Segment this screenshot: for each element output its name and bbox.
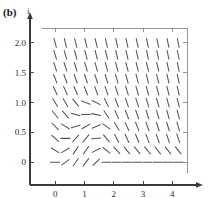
slope-mark [104,99,108,107]
slope-mark [156,134,159,143]
slope-mark [167,98,169,107]
slope-mark [104,111,109,119]
x-tick-label: 1 [74,189,94,198]
slope-mark [177,134,180,143]
slope-mark [54,51,57,60]
slope-mark [177,86,179,95]
slope-mark [114,123,119,131]
slope-mark [73,135,79,142]
slope-mark [105,62,107,71]
slope-mark [82,101,90,104]
slope-mark [115,86,118,95]
slope-mark [146,50,148,59]
slope-mark [92,125,100,128]
slope-mark [116,62,118,71]
slope-mark [54,75,57,83]
slope-mark [52,123,58,129]
slope-mark [53,99,58,107]
y-tick-label: 2.0 [15,38,26,48]
y-tick-label: 0 [22,157,27,167]
slope-mark [156,110,159,119]
slope-mark [177,39,179,48]
slope-mark [95,62,98,71]
slope-mark [167,86,169,95]
slope-mark [146,122,149,130]
slope-mark [62,124,70,129]
slope-mark [64,87,68,95]
slope-mark [92,138,101,139]
slope-mark [105,86,108,95]
slope-mark [136,74,138,83]
slope-mark [84,86,87,94]
slope-mark [136,50,138,59]
slope-mark [73,159,78,166]
slope-mark [95,50,97,59]
slope-mark [136,86,139,95]
slope-mark [147,39,149,48]
slope-mark [116,39,118,48]
slope-mark [146,62,148,71]
slope-mark [105,50,107,59]
slope-mark [52,135,59,141]
slope-mark [177,62,179,71]
slope-mark [157,86,159,95]
slope-mark [126,62,128,71]
slope-mark [116,50,118,59]
slope-mark [82,124,90,129]
x-tick-label: 0 [45,189,65,198]
slope-mark [136,98,139,107]
slope-mark [54,63,57,72]
slope-mark [167,50,169,59]
slope-mark [62,111,68,118]
slope-mark [114,147,120,154]
slope-mark [92,148,100,152]
slope-mark [85,51,87,60]
slope-mark [85,62,88,71]
slope-mark [134,147,140,154]
slope-mark [95,74,98,83]
slope-mark [85,74,88,83]
x-tick-label: 3 [133,189,153,198]
slope-mark [175,147,181,154]
slope-mark [73,147,78,155]
slope-mark [71,113,80,116]
slope-mark [115,98,118,106]
slope-mark [177,110,179,119]
slope-mark [146,86,148,95]
slope-mark [126,39,128,48]
slope-mark [165,147,171,154]
slope-mark [167,62,169,71]
slope-mark [74,74,77,83]
slope-mark [71,125,80,128]
slope-mark [125,134,129,142]
slope-mark [126,98,129,107]
slope-mark [136,110,139,118]
slope-field-canvas [0,0,208,198]
slope-mark [136,39,138,48]
slope-mark [136,62,138,71]
slope-mark [136,122,139,130]
slope-mark [157,74,159,83]
slope-mark [83,135,89,142]
x-tick-label: 4 [162,189,182,198]
x-tick-label: 2 [104,189,124,198]
slope-mark [177,98,179,107]
slope-mark [156,122,159,131]
slope-mark [167,39,169,48]
slope-mark [167,134,170,143]
slope-mark [125,122,129,130]
slope-mark [105,74,108,83]
slope-mark [146,74,148,83]
slope-mark [155,147,161,154]
slope-mark [74,62,77,71]
slope-mark [156,98,158,107]
slope-mark [167,122,170,131]
slope-mark [64,74,67,82]
slope-mark [103,124,110,129]
slope-mark [62,160,69,165]
slope-mark [177,74,179,83]
slope-mark [126,74,128,83]
slope-mark [54,39,56,48]
slope-mark [124,147,130,154]
slope-mark [146,110,149,119]
